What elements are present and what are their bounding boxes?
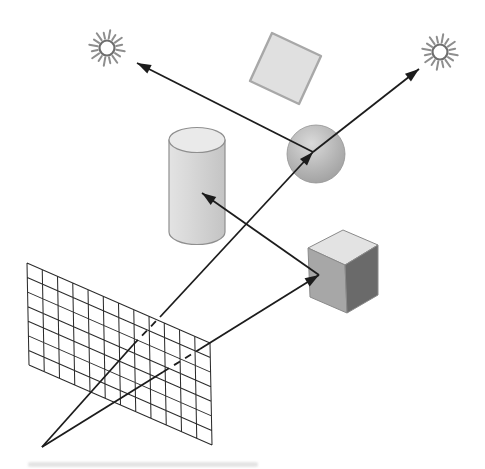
sun-ray-spike	[437, 61, 439, 69]
light-source-right	[422, 34, 457, 69]
sun-ray-spike	[104, 57, 106, 65]
sun-ray-spike	[448, 57, 453, 60]
square-face	[250, 33, 321, 104]
cropped-caption-artifact	[28, 462, 258, 467]
ray-segment	[200, 275, 319, 349]
sun-ray-spike	[442, 34, 444, 42]
sun-ray-spike	[425, 57, 432, 62]
sun-ray-spike	[437, 37, 438, 43]
sun-ray-spike	[432, 60, 435, 65]
shadow-ray-sphere-to-right-light	[313, 69, 419, 152]
sun-ray-spike	[448, 42, 455, 47]
light-source-left	[89, 30, 124, 65]
ray-segment	[313, 69, 419, 152]
sun-ray-spike	[442, 61, 443, 67]
sun-ray-spike	[99, 56, 102, 61]
sun-core-icon	[433, 45, 448, 60]
sun-ray-spike	[92, 50, 98, 51]
sun-ray-spike	[116, 50, 124, 52]
sun-ray-spike	[97, 33, 102, 40]
sun-ray-spike	[422, 49, 430, 51]
square-object	[250, 33, 321, 104]
sun-core-icon	[100, 41, 115, 56]
cylinder-top	[169, 128, 225, 153]
sun-ray-spike	[430, 37, 435, 44]
ray-segment	[163, 349, 200, 372]
cylinder-object	[169, 128, 225, 245]
sun-ray-spike	[449, 49, 455, 50]
sun-ray-spike	[449, 54, 457, 56]
ray-segment	[133, 317, 160, 345]
arrowhead-icon	[137, 63, 152, 74]
cube-object	[308, 230, 378, 313]
sun-ray-spike	[425, 54, 431, 55]
sun-ray-spike	[427, 44, 432, 47]
sun-ray-spike	[445, 60, 450, 67]
ray-tracing-diagram	[0, 0, 485, 469]
diagram-canvas	[0, 0, 485, 469]
sun-ray-spike	[94, 40, 99, 43]
sun-ray-spike	[445, 39, 448, 44]
arrowhead-icon	[405, 69, 419, 81]
sun-ray-spike	[115, 53, 120, 56]
sun-ray-spike	[112, 35, 115, 40]
sun-ray-spike	[89, 45, 97, 47]
ray-segment	[42, 345, 133, 447]
sun-ray-spike	[104, 33, 105, 39]
sun-ray-spike	[115, 38, 122, 43]
sun-ray-spike	[116, 45, 122, 46]
sun-ray-spike	[112, 56, 117, 63]
sun-ray-spike	[109, 30, 111, 38]
sun-ray-spike	[92, 53, 99, 58]
cylinder-body	[169, 140, 225, 245]
sun-ray-spike	[109, 57, 110, 63]
